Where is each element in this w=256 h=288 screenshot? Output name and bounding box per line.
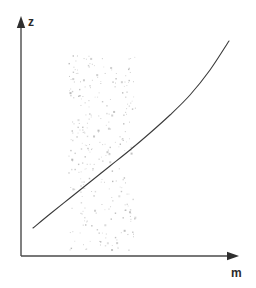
figure-root: z m (0, 0, 256, 288)
diagram-canvas: z m (0, 0, 256, 288)
figure-background (0, 0, 256, 288)
z-axis-label: z (28, 15, 34, 29)
m-axis-label: m (231, 266, 242, 280)
